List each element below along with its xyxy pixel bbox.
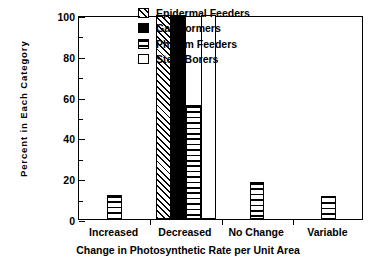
bar: [321, 196, 336, 219]
y-tick-label: 80: [63, 52, 75, 64]
x-category-label: No Change: [228, 226, 283, 238]
x-tick: [293, 219, 294, 225]
bar: [107, 195, 122, 219]
bar: [250, 182, 265, 219]
legend-item: Phloem Feeders: [138, 36, 270, 52]
legend-swatch-icon: [138, 39, 149, 49]
y-tick-label: 60: [63, 93, 75, 105]
y-tick-label: 100: [57, 11, 75, 23]
bar: [186, 105, 201, 219]
x-axis-title: Change in Photosynthetic Rate per Unit A…: [0, 244, 376, 256]
y-tick-major: [79, 99, 85, 100]
chart-legend: Epidermal FeedersGall FormersPhloem Feed…: [138, 5, 270, 67]
y-tick-minor: [79, 201, 83, 202]
y-tick-minor: [79, 37, 83, 38]
y-tick-major: [79, 180, 85, 181]
y-tick-label: 40: [63, 133, 75, 145]
legend-label: Epidermal Feeders: [156, 8, 250, 19]
legend-item: Gall Formers: [138, 21, 270, 37]
y-tick-minor: [79, 160, 83, 161]
x-category-label: Increased: [89, 226, 138, 238]
legend-item: Epidermal Feeders: [138, 5, 270, 21]
legend-label: Gall Formers: [156, 23, 221, 34]
legend-swatch-icon: [138, 54, 149, 64]
y-tick-label: 0: [69, 215, 75, 227]
y-tick-minor: [79, 119, 83, 120]
y-axis-title: Percent in Each Category: [19, 9, 29, 209]
x-tick: [222, 219, 223, 225]
x-tick: [150, 219, 151, 225]
x-category-label: Decreased: [158, 226, 211, 238]
legend-swatch-icon: [138, 23, 149, 33]
y-tick-major: [79, 221, 85, 222]
legend-label: Stem Borers: [156, 54, 218, 65]
legend-swatch-icon: [138, 8, 149, 18]
y-tick-label: 20: [63, 174, 75, 186]
legend-label: Phloem Feeders: [156, 39, 237, 50]
y-tick-major: [79, 58, 85, 59]
legend-item: Stem Borers: [138, 52, 270, 68]
x-category-label: Variable: [307, 226, 347, 238]
bar-chart-figure: Percent in Each Category 020406080100 In…: [0, 0, 376, 275]
y-tick-major: [79, 17, 85, 18]
y-tick-major: [79, 139, 85, 140]
x-axis-category-labels: IncreasedDecreasedNo ChangeVariable: [78, 226, 363, 242]
y-tick-minor: [79, 78, 83, 79]
